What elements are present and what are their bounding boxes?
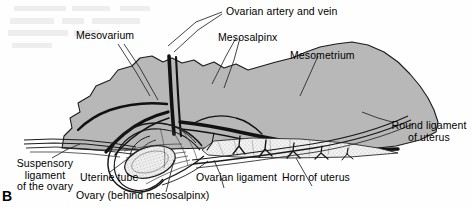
figure-panel: Mesovarium Ovarian artery and vein Mesos… bbox=[0, 0, 472, 207]
label-mesovarium: Mesovarium bbox=[76, 30, 134, 42]
label-mesometrium: Mesometrium bbox=[290, 50, 355, 62]
panel-letter: B bbox=[2, 188, 12, 204]
label-ovary: Ovary (behind mesosalpinx) bbox=[76, 190, 209, 202]
label-suspensory-line2: ligament bbox=[25, 169, 66, 181]
label-ovarian-ligament: Ovarian ligament bbox=[196, 172, 277, 184]
label-suspensory-line1: Suspensory bbox=[17, 157, 73, 169]
label-horn-of-uterus: Horn of uterus bbox=[282, 172, 350, 184]
label-suspensory-ligament-of-ovary: Suspensory ligament of the ovary bbox=[8, 158, 82, 193]
label-ovarian-artery-and-vein: Ovarian artery and vein bbox=[226, 6, 337, 18]
label-round-ligament-line2: of uterus bbox=[408, 131, 450, 143]
label-round-ligament-line1: Round ligament bbox=[392, 119, 467, 131]
label-suspensory-line3: of the ovary bbox=[17, 180, 73, 192]
label-uterine-tube: Uterine tube bbox=[80, 172, 138, 184]
label-mesosalpinx: Mesosalpinx bbox=[218, 32, 277, 44]
label-round-ligament-of-uterus: Round ligament of uterus bbox=[388, 120, 470, 143]
scan-artifact bbox=[8, 6, 150, 48]
